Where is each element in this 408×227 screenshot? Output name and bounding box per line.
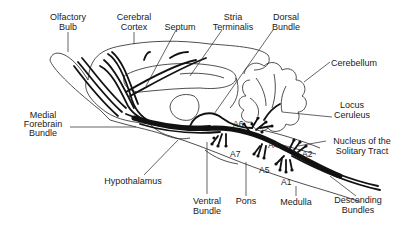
brain-pathway-diagram: OlfactoryBulb CerebralCortex Septum Stri… (0, 0, 408, 227)
label-medulla: Medulla (280, 197, 312, 207)
label-a2: A2 (302, 149, 313, 159)
label-medial-forebrain-bundle: MedialForebrainBundle (24, 110, 63, 138)
cerebellum-outline (239, 63, 306, 132)
label-cerebral-cortex: CerebralCortex (117, 12, 152, 32)
label-a1: A1 (281, 177, 292, 187)
label-dorsal-bundle: DorsalBundle (272, 12, 300, 32)
label-locus-ceruleus: LocusCeruleus (334, 100, 371, 120)
label-cerebellum: Cerebellum (331, 58, 377, 68)
label-a4: A4 (268, 140, 279, 150)
label-nucleus-solitary-tract: Nucleus of theSolitary Tract (333, 136, 391, 156)
noradrenergic-fibers (74, 52, 380, 190)
label-stria-terminalis: StriaTerminalis (213, 12, 254, 32)
label-a7: A7 (230, 149, 241, 159)
label-septum: Septum (164, 22, 195, 32)
brain-outline (50, 41, 360, 202)
label-a6: A6 (233, 119, 244, 129)
label-hypothalamus: Hypothalamus (104, 176, 162, 186)
label-descending-bundles: DescendingBundles (334, 195, 382, 215)
label-a5: A5 (259, 165, 270, 175)
label-olfactory-bulb: OlfactoryBulb (50, 12, 87, 32)
label-pons: Pons (236, 196, 257, 206)
label-ventral-bundle: VentralBundle (193, 196, 221, 216)
